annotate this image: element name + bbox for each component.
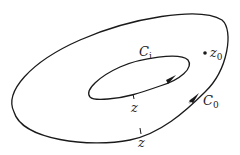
- outer-arrowhead-icon: [189, 93, 199, 103]
- outer-contour-label: C0: [203, 94, 219, 110]
- point-z0-dot: [203, 51, 207, 55]
- contour-diagram: [0, 0, 240, 155]
- outer-contour-label-sub: 0: [213, 100, 219, 110]
- point-label-sub: 0: [217, 52, 223, 62]
- outer-contour-label-base: C: [203, 93, 213, 108]
- outer-contour: [12, 14, 228, 143]
- inner-contour-label: Ci: [139, 45, 152, 61]
- point-label-base: z: [210, 45, 217, 60]
- outer-z-label: z: [138, 136, 145, 149]
- point-z0-label: z0: [210, 46, 223, 62]
- inner-z-label: z: [131, 101, 138, 114]
- outer-z-tick: [140, 128, 141, 134]
- inner-contour: [89, 56, 190, 99]
- inner-contour-label-base: C: [139, 44, 149, 59]
- inner-contour-label-sub: i: [149, 51, 152, 61]
